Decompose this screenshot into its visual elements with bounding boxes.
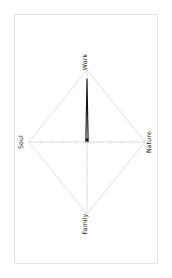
axis-label-work: Work [81,54,88,71]
radar-chart: Work Nature Family Soul [0,0,172,278]
axis-label-family: Family [81,213,89,234]
axis-label-nature: Nature [145,131,152,153]
figure-canvas: Work Nature Family Soul [0,0,172,278]
axis-label-soul: Soul [17,135,24,149]
